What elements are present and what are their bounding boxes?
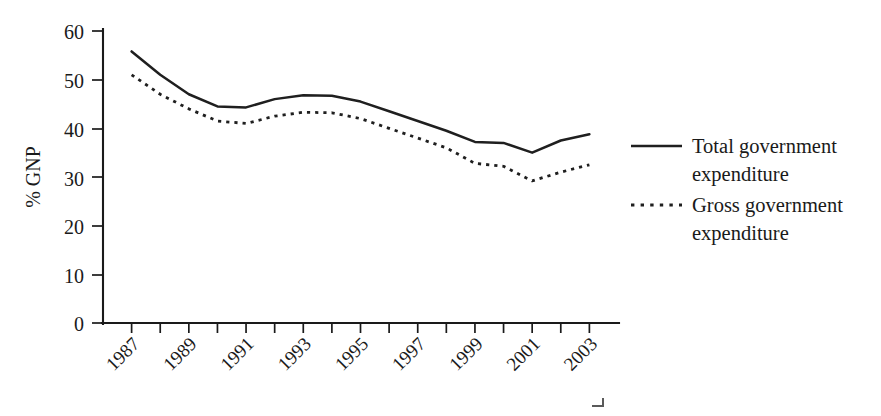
x-tick-labels: 198719891991199319951997199920012003 bbox=[102, 333, 601, 375]
legend-label-gross-line1: Gross government bbox=[692, 194, 843, 217]
y-axis-title: % GNP bbox=[22, 146, 44, 208]
x-tick-label: 1997 bbox=[388, 333, 430, 375]
x-tick-label: 1987 bbox=[102, 333, 144, 375]
x-tick-label: 1995 bbox=[331, 333, 373, 375]
legend-label-gross-line2: expenditure bbox=[692, 222, 789, 245]
line-chart: % GNP 60 50 40 30 20 10 0 19871989199119 bbox=[0, 0, 881, 416]
y-axis-ticks bbox=[92, 31, 102, 323]
y-tick-labels: 60 50 40 30 20 10 0 bbox=[64, 21, 84, 335]
legend-label-total-line2: expenditure bbox=[692, 163, 789, 186]
x-tick-label: 2003 bbox=[559, 333, 601, 375]
x-tick-label: 2001 bbox=[502, 333, 544, 375]
y-tick-label: 40 bbox=[64, 119, 84, 141]
x-tick-label: 1991 bbox=[216, 333, 258, 375]
x-tick-label: 1993 bbox=[273, 333, 315, 375]
series-line-total-government-expenditure bbox=[132, 51, 590, 152]
y-tick-label: 50 bbox=[64, 70, 84, 92]
x-tick-label: 1989 bbox=[159, 333, 201, 375]
series-line-gross-government-expenditure bbox=[132, 75, 590, 181]
y-tick-label: 20 bbox=[64, 216, 84, 238]
scan-corner-mark bbox=[592, 398, 603, 406]
y-tick-label: 60 bbox=[64, 21, 84, 43]
x-axis-ticks bbox=[132, 323, 590, 333]
chart-legend: Total government expenditure Gross gover… bbox=[631, 135, 843, 245]
y-tick-label: 30 bbox=[64, 168, 84, 190]
chart-page: % GNP 60 50 40 30 20 10 0 19871989199119 bbox=[0, 0, 881, 416]
legend-label-total-line1: Total government bbox=[692, 135, 837, 158]
x-tick-label: 1999 bbox=[445, 333, 487, 375]
y-tick-label: 0 bbox=[74, 313, 84, 335]
y-tick-label: 10 bbox=[64, 265, 84, 287]
